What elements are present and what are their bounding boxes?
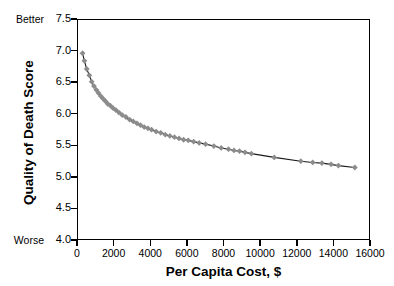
data-point-marker (172, 134, 178, 140)
x-tick-label: 10000 (246, 248, 275, 259)
x-tick-label: 2000 (102, 248, 125, 259)
data-point-marker (203, 141, 209, 147)
y-axis-tick-labels: 4.04.55.05.56.06.57.07.5 (40, 0, 71, 286)
data-point-marker (226, 146, 232, 152)
x-tick-label: 6000 (175, 248, 198, 259)
y-axis-title: Quality of Death Score (21, 43, 36, 223)
data-point-marker (196, 140, 202, 146)
data-point-marker (218, 145, 224, 151)
x-tick-label: 12000 (282, 248, 311, 259)
x-tick-label: 14000 (319, 248, 348, 259)
data-point-marker (231, 148, 237, 154)
chart-figure: Better Worse Quality of Death Score 4.04… (0, 0, 394, 286)
data-point-marker (86, 72, 92, 78)
x-tick-mark (150, 240, 152, 246)
x-tick-mark (186, 240, 188, 246)
x-tick-label: 4000 (139, 248, 162, 259)
data-point-marker (81, 58, 87, 64)
data-point-marker (271, 155, 277, 161)
data-point-marker (176, 136, 182, 142)
x-tick-mark (333, 240, 335, 246)
y-tick-label: 4.0 (45, 234, 71, 245)
x-tick-label: 0 (74, 248, 80, 259)
y-tick-label: 6.5 (45, 76, 71, 87)
x-tick-mark (259, 240, 261, 246)
x-axis-title: Per Capita Cost, $ (77, 264, 370, 279)
data-point-marker (237, 148, 243, 154)
data-point-marker (328, 161, 334, 167)
x-tick-mark (113, 240, 115, 246)
y-tick-label: 7.0 (45, 45, 71, 56)
data-point-marker (181, 137, 187, 143)
data-point-marker (185, 137, 191, 143)
data-point-marker (211, 143, 217, 149)
data-point-marker (248, 151, 254, 157)
data-point-marker (242, 149, 248, 155)
data-point-marker (310, 160, 316, 166)
y-tick-label: 6.0 (45, 108, 71, 119)
series-line (83, 53, 355, 167)
x-tick-mark (369, 240, 371, 246)
plot-area (77, 19, 370, 240)
y-tick-label: 4.5 (45, 202, 71, 213)
y-tick-label: 5.5 (45, 139, 71, 150)
y-tick-label: 5.0 (45, 171, 71, 182)
x-tick-mark (223, 240, 225, 246)
data-series-svg (78, 20, 368, 238)
x-tick-label: 16000 (355, 248, 384, 259)
axis-end-label-worse: Worse (2, 235, 44, 246)
axis-end-label-better: Better (2, 14, 44, 25)
data-point-marker (80, 50, 86, 56)
data-point-marker (335, 163, 341, 169)
data-point-marker (319, 160, 325, 166)
data-point-marker (298, 158, 304, 164)
x-tick-mark (296, 240, 298, 246)
data-point-marker (167, 133, 173, 139)
data-point-marker (352, 165, 358, 171)
x-tick-mark (76, 240, 78, 246)
data-point-marker (84, 66, 90, 72)
x-tick-label: 8000 (212, 248, 235, 259)
data-point-marker (191, 139, 197, 145)
y-tick-label: 7.5 (45, 13, 71, 24)
